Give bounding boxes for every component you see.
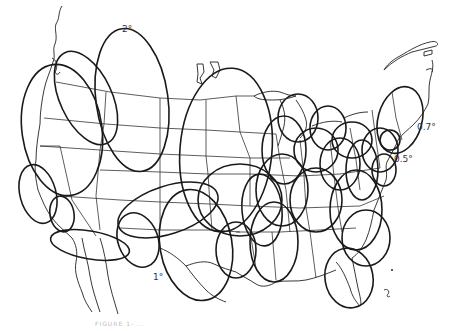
island-marks — [384, 269, 393, 297]
figure-caption: FIGURE 1- ... — [95, 320, 146, 327]
label-southwest-1-degree: 1° — [153, 272, 163, 282]
label-northeast-0-7-degrees: 0.7° — [417, 122, 436, 132]
map-canvas — [0, 0, 455, 331]
us-map-figure: 2° 0.7° 0.5° 1° FIGURE 1- ... — [0, 0, 455, 331]
label-west-2-degrees: 2° — [122, 24, 132, 34]
label-east-0-5-degrees: 0.5° — [394, 154, 413, 164]
